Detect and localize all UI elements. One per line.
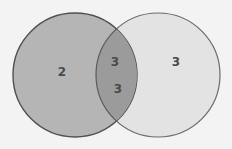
intersection-label-bottom: 3 [114, 82, 122, 96]
intersection-label-top: 3 [111, 55, 119, 69]
left-set-label: 2 [58, 65, 66, 79]
right-set-label: 3 [172, 55, 180, 69]
venn-diagram: 2 3 3 3 [0, 0, 232, 149]
